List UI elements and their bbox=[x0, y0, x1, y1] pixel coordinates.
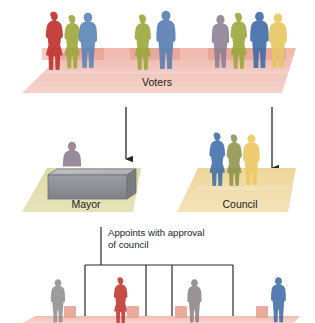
mayor-desk bbox=[48, 169, 136, 199]
mayor-platform-label: Mayor bbox=[71, 198, 101, 210]
diagram-canvas: Voters Mayor Council Appoints with appro… bbox=[0, 0, 315, 323]
appoints-note-line1: Appoints with approval bbox=[108, 227, 205, 238]
mayor-desk-top bbox=[48, 169, 136, 175]
briefcase-icon bbox=[64, 306, 76, 318]
voters-platform-label: Voters bbox=[142, 76, 172, 88]
mayor-desk-front bbox=[48, 175, 127, 199]
briefcase-icon bbox=[127, 306, 139, 318]
briefcase-icon bbox=[256, 306, 268, 318]
appoints-note-line2: of council bbox=[108, 239, 149, 250]
briefcase-icon bbox=[175, 306, 187, 318]
council-leg-fade bbox=[198, 170, 288, 190]
voters-leg-fade bbox=[20, 52, 296, 74]
council-platform-label: Council bbox=[222, 198, 257, 210]
